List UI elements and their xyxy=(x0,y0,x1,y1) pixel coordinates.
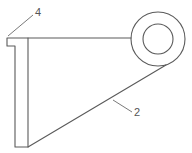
part-label-2: 2 xyxy=(134,106,140,118)
leader-line-4 xyxy=(8,15,33,36)
eye-outer-circle xyxy=(131,12,185,66)
bracket-diagram: 4 2 xyxy=(0,0,192,153)
bracket-outline xyxy=(7,38,166,147)
part-label-4: 4 xyxy=(35,6,41,18)
eye-inner-circle xyxy=(143,24,173,54)
leader-line-2 xyxy=(113,100,132,112)
